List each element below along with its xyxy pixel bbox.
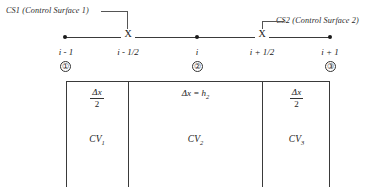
node-dot-i <box>195 35 199 39</box>
face-marker-i-plus-half: X <box>255 29 269 39</box>
cv1-label: CV1 <box>66 134 128 146</box>
cv3-fraction-denominator: 2 <box>290 99 303 110</box>
cv3-label-subscript: 3 <box>301 139 304 146</box>
node-dot-i-plus-1 <box>328 35 332 39</box>
cv2-size-expression: Δx = h2 <box>129 88 262 100</box>
node-label-i-plus-1: i + 1 <box>313 47 347 57</box>
cv1-size-expression: Δx 2 <box>66 88 128 109</box>
cv3-fraction: Δx 2 <box>290 88 303 109</box>
circled-number-2: ② <box>192 61 203 72</box>
cv1-fraction-numerator: Δx <box>90 88 103 99</box>
cv2-size-equation: Δx = h2 <box>182 88 210 98</box>
control-surface-1-label: CS1 (Control Surface 1) <box>6 6 89 15</box>
face-label-i-plus-half: i + 1/2 <box>240 47 284 57</box>
cv1-label-subscript: 1 <box>101 139 104 146</box>
circled-number-3: ③ <box>325 61 336 72</box>
cv3-fraction-numerator: Δx <box>290 88 303 99</box>
node-dot-i-minus-1 <box>63 35 67 39</box>
cv1-label-text: CV <box>89 134 101 144</box>
circled-number-1: ① <box>60 61 71 72</box>
cv2-label: CV2 <box>129 134 262 146</box>
face-label-i-minus-half: i - 1/2 <box>107 47 149 57</box>
cv3-label-text: CV <box>289 134 301 144</box>
node-label-i: i <box>189 47 205 57</box>
control-surface-2-leader-horizontal <box>262 21 284 22</box>
node-label-i-minus-1: i - 1 <box>49 47 83 57</box>
cv2-size-lhs: Δx = <box>182 88 200 98</box>
cv2-size-rhs-subscript: 2 <box>206 93 209 100</box>
cv1-fraction: Δx 2 <box>90 88 103 109</box>
cv2-label-text: CV <box>188 134 200 144</box>
control-surface-1-leader-horizontal <box>101 11 128 12</box>
control-surface-2-label: CS2 (Control Surface 2) <box>276 16 359 25</box>
cv3-label: CV3 <box>263 134 330 146</box>
cv3-size-expression: Δx 2 <box>263 88 330 109</box>
diagram-canvas: CS1 (Control Surface 1) CS2 (Control Sur… <box>0 0 388 187</box>
cv1-fraction-denominator: 2 <box>90 99 103 110</box>
cv2-label-subscript: 2 <box>200 139 203 146</box>
face-marker-i-minus-half: X <box>121 29 135 39</box>
